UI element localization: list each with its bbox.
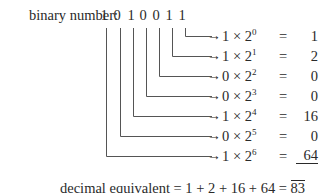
term-row: 0 × 22 = 0 [222, 68, 256, 84]
term-value: 0 [296, 68, 318, 84]
times-sign: × [233, 148, 241, 164]
term-exponent: 0 [252, 27, 257, 37]
term-coef: 1 [222, 48, 229, 64]
equals-sign: = [279, 28, 287, 44]
term-coef: 1 [222, 148, 229, 164]
term-value: 1 [296, 28, 318, 44]
arrow-icon: → [207, 148, 221, 164]
term-row: 1 × 21 = 2 [222, 48, 256, 64]
term-base: 2 [245, 88, 252, 104]
term-base: 2 [245, 28, 252, 44]
term-coef: 1 [222, 108, 229, 124]
term-base: 2 [245, 68, 252, 84]
times-sign: × [233, 28, 241, 44]
term-exponent: 4 [252, 107, 257, 117]
equals-sign: = [279, 88, 287, 104]
times-sign: × [233, 68, 241, 84]
equals-sign: = [279, 108, 287, 124]
decimal-sum: decimal equivalent = 1 + 2 + 16 + 64 = 8… [60, 180, 305, 193]
term-coef: 0 [222, 68, 229, 84]
term-row: 1 × 24 = 16 [222, 108, 256, 124]
term-value: 2 [296, 48, 318, 64]
term-base: 2 [245, 148, 252, 164]
term-value: 0 [296, 88, 318, 104]
term-value: 0 [296, 128, 318, 144]
term-row: 1 × 26 = 64 [222, 148, 256, 164]
equals-sign: = [279, 128, 287, 144]
sum-label: decimal equivalent [60, 180, 170, 193]
arrow-icon: → [207, 88, 221, 104]
equals-sign: = [279, 68, 287, 84]
connector-bit-5 [121, 28, 213, 137]
arrow-icon: → [207, 48, 221, 64]
term-coef: 0 [222, 88, 229, 104]
term-base: 2 [245, 48, 252, 64]
arrow-icon: → [207, 128, 221, 144]
term-base: 2 [245, 128, 252, 144]
arrow-icon: → [207, 68, 221, 84]
equals-sign: = [279, 148, 287, 164]
times-sign: × [233, 48, 241, 64]
term-exponent: 6 [252, 147, 257, 157]
times-sign: × [233, 88, 241, 104]
term-coef: 1 [222, 28, 229, 44]
term-row: 0 × 23 = 0 [222, 88, 256, 104]
term-base: 2 [245, 108, 252, 124]
term-value: 64 [296, 148, 318, 164]
term-row: 1 × 20 = 1 [222, 28, 256, 44]
sum-total: 83 [291, 180, 306, 193]
term-exponent: 1 [252, 47, 257, 57]
term-coef: 0 [222, 128, 229, 144]
sum-expression: = 1 + 2 + 16 + 64 = [174, 180, 287, 193]
times-sign: × [233, 128, 241, 144]
term-row: 0 × 25 = 0 [222, 128, 256, 144]
arrow-icon: → [207, 28, 221, 44]
term-exponent: 5 [252, 127, 257, 137]
times-sign: × [233, 108, 241, 124]
connector-lines [0, 0, 320, 193]
connector-bit-3 [147, 28, 213, 97]
arrow-icon: → [207, 108, 221, 124]
term-exponent: 2 [252, 67, 257, 77]
equals-sign: = [279, 48, 287, 64]
term-exponent: 3 [252, 87, 257, 97]
term-value: 16 [296, 108, 318, 124]
